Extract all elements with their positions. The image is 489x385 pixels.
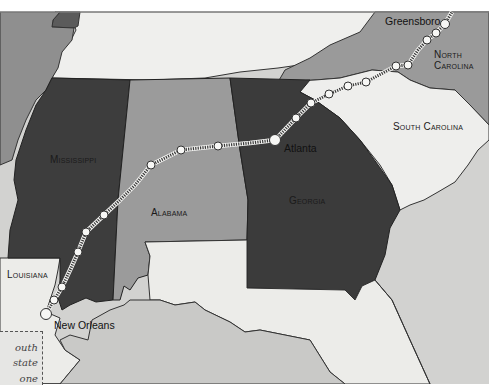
- label-mississippi: Mississippi: [50, 155, 96, 165]
- note-box: outh state one: [0, 331, 43, 385]
- note-line-3: one: [20, 373, 38, 384]
- station-greensboro: [441, 20, 450, 29]
- station-new-orleans: [41, 309, 52, 320]
- label-alabama: Alabama: [151, 208, 187, 218]
- label-louisiana: Louisiana: [7, 270, 48, 280]
- note-line-1: outh: [15, 342, 38, 353]
- label-atlanta: Atlanta: [284, 143, 317, 154]
- label-north-carolina-1: North: [434, 50, 462, 60]
- label-greensboro: Greensboro: [385, 16, 440, 27]
- label-georgia: Georgia: [289, 196, 325, 206]
- note-line-2: state: [13, 357, 38, 368]
- label-south-carolina: South Carolina: [393, 122, 463, 132]
- station-atlanta: [270, 135, 281, 146]
- label-north-carolina-2: Carolina: [434, 61, 474, 71]
- label-new-orleans: New Orleans: [54, 320, 115, 331]
